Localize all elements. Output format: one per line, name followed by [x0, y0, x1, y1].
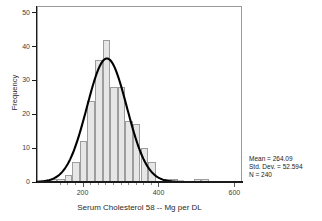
x-tick-minor-mark [121, 183, 122, 185]
x-tick-minor-mark [128, 183, 129, 185]
y-tick-mark [32, 80, 36, 81]
plot-area [37, 6, 242, 182]
x-tick-label: 200 [68, 189, 98, 197]
x-tick-minor-mark [136, 183, 137, 185]
histogram-bar [125, 121, 133, 182]
histogram-bar [80, 141, 88, 182]
x-tick-minor-mark [113, 183, 114, 185]
x-tick-mark [158, 183, 159, 187]
histogram-figure: 01020304050 200400600 Frequency Serum Ch… [0, 0, 322, 221]
y-tick-mark [32, 182, 36, 183]
y-tick-mark [32, 114, 36, 115]
x-tick-minor-mark [75, 183, 76, 185]
y-tick-mark [32, 12, 36, 13]
histogram-bar [72, 162, 80, 182]
x-tick-label: 400 [143, 189, 173, 197]
histogram-bar [148, 162, 156, 182]
stat-stddev: Std. Dev. = 52.594 [249, 163, 303, 171]
y-axis-title: Frequency [10, 48, 19, 138]
x-tick-mark [234, 183, 235, 187]
histogram-bar [133, 124, 141, 182]
histogram-bar [141, 148, 149, 182]
histogram-bar [87, 101, 95, 182]
x-tick-minor-mark [151, 183, 152, 185]
y-tick-label: 0 [8, 178, 30, 185]
x-axis-title: Serum Cholesterol 58 -- Mg per DL [37, 203, 242, 212]
histogram-bar [110, 87, 118, 182]
stat-mean: Mean = 264.09 [249, 155, 303, 163]
statistics-annotation: Mean = 264.09 Std. Dev. = 52.594 N = 240 [249, 155, 303, 180]
y-tick-label: 50 [8, 9, 30, 16]
x-tick-minor-mark [143, 183, 144, 185]
y-tick-mark [32, 46, 36, 47]
x-tick-minor-mark [60, 183, 61, 185]
x-tick-minor-mark [98, 183, 99, 185]
y-tick-label: 10 [8, 144, 30, 151]
x-tick-minor-mark [90, 183, 91, 185]
histogram-bar [95, 60, 103, 182]
x-tick-minor-mark [105, 183, 106, 185]
histogram-bar [118, 87, 126, 182]
y-tick-mark [32, 148, 36, 149]
x-tick-minor-mark [67, 183, 68, 185]
histogram-bar [103, 40, 111, 182]
bars-container [38, 7, 241, 182]
x-tick-mark [83, 183, 84, 187]
stat-n: N = 240 [249, 171, 303, 179]
x-tick-label: 600 [219, 189, 249, 197]
